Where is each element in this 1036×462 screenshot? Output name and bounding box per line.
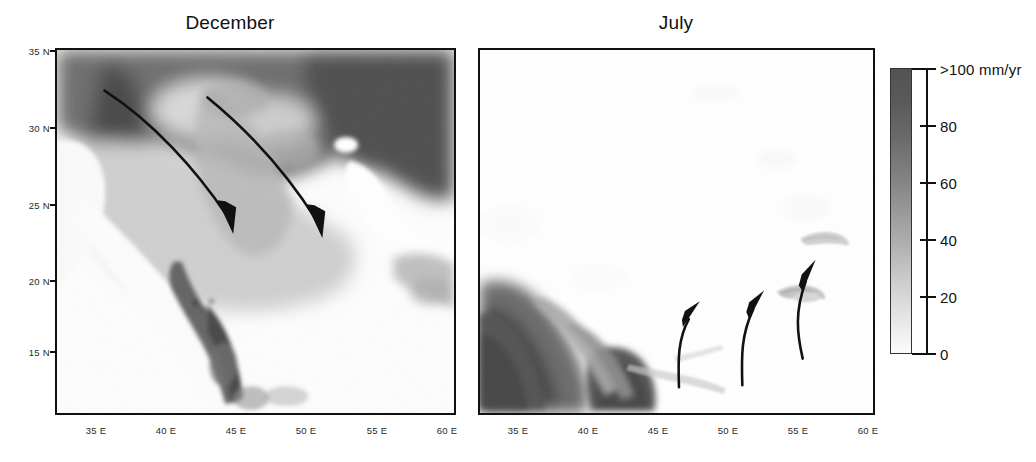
figure-root: December xyxy=(0,0,1036,462)
xtick-label-40e: 40 E xyxy=(156,425,177,436)
ytick-label-20n: 20 N xyxy=(6,276,50,287)
panel-july-title: July xyxy=(478,12,874,34)
panel-december: December xyxy=(0,0,470,462)
ytick-label-35n: 35 N xyxy=(6,46,50,57)
panel-july: July xyxy=(470,0,890,462)
xtick-label-60e: 60 E xyxy=(437,425,458,436)
colorbar-tick-20 xyxy=(920,296,936,298)
colorbar-tick-60 xyxy=(920,182,936,184)
colorbar-gradient xyxy=(890,68,912,354)
july-xtick-label-50e: 50 E xyxy=(718,425,739,436)
ytick-mark-25n xyxy=(50,204,55,206)
colorbar-axis-line xyxy=(926,68,928,354)
xtick-label-55e: 55 E xyxy=(367,425,388,436)
ytick-mark-30n xyxy=(50,127,55,129)
colorbar-label-40: 40 xyxy=(940,232,957,249)
ytick-mark-15n xyxy=(50,351,55,353)
colorbar-label-60: 60 xyxy=(940,175,957,192)
ytick-label-15n: 15 N xyxy=(6,347,50,358)
colorbar-label-0: 0 xyxy=(940,346,949,363)
ytick-label-30n: 30 N xyxy=(6,123,50,134)
colorbar-label-80: 80 xyxy=(940,118,957,135)
colorbar-label-20: 20 xyxy=(940,289,957,306)
colorbar-tick-80 xyxy=(920,125,936,127)
colorbar-tick-40 xyxy=(920,239,936,241)
colorbar-tick-100 xyxy=(912,68,936,70)
colorbar-tick-0 xyxy=(912,353,936,355)
colorbar-label-100: >100 mm/yr xyxy=(940,61,1022,78)
july-precip-raster xyxy=(480,50,873,413)
december-precip-raster xyxy=(57,50,454,413)
july-xtick-label-35e: 35 E xyxy=(508,425,529,436)
xtick-label-35e: 35 E xyxy=(86,425,107,436)
july-xtick-label-45e: 45 E xyxy=(648,425,669,436)
ytick-mark-20n xyxy=(50,280,55,282)
ytick-label-25n: 25 N xyxy=(6,200,50,211)
july-xtick-label-60e: 60 E xyxy=(858,425,879,436)
july-xtick-label-55e: 55 E xyxy=(788,425,809,436)
panel-december-plot-frame xyxy=(55,48,456,415)
xtick-label-45e: 45 E xyxy=(226,425,247,436)
ytick-mark-35n xyxy=(50,50,55,52)
panel-july-plot-frame xyxy=(478,48,875,415)
july-xtick-label-40e: 40 E xyxy=(578,425,599,436)
xtick-label-50e: 50 E xyxy=(296,425,317,436)
panel-december-title: December xyxy=(0,12,465,34)
colorbar: >100 mm/yr 80 60 40 20 0 xyxy=(890,68,1030,360)
